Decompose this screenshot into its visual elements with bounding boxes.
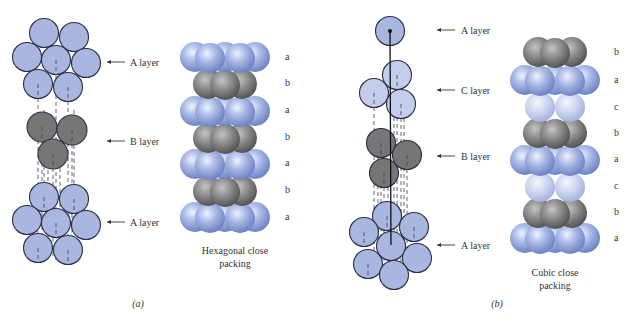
atom-a-layer — [30, 19, 59, 48]
caption-line: Cubic close — [532, 267, 579, 278]
stack-layer-label: a — [614, 232, 619, 243]
sphere-b — [210, 124, 240, 154]
arrow-left-icon — [437, 28, 441, 32]
atom-a-layer — [13, 206, 42, 235]
arrow-left-icon — [107, 220, 111, 224]
stack-layer-label: c — [614, 101, 619, 112]
panel-a-hexagonal: A layerB layerA layerabababaHexagonal cl… — [13, 19, 291, 311]
cubic-stack — [510, 37, 600, 254]
sphere-b — [540, 199, 570, 229]
layer-label: B layer — [130, 136, 160, 147]
sphere-b — [210, 177, 240, 207]
arrow-left-icon — [437, 88, 441, 92]
sphere-c — [525, 92, 555, 122]
stack-layer-label: a — [614, 74, 619, 85]
sphere-b — [540, 119, 570, 149]
atom-a-layer — [13, 43, 42, 72]
caption-line: packing — [539, 280, 571, 291]
sphere-a — [525, 146, 555, 176]
layer-label: A layer — [461, 240, 491, 251]
sphere-a — [555, 224, 585, 254]
atom-a-layer — [60, 23, 89, 52]
sphere-a — [525, 66, 555, 96]
stack-layer-label: b — [614, 206, 619, 217]
arrow-left-icon — [437, 154, 441, 158]
layer-label: A layer — [130, 57, 160, 68]
stack-layer-label: b — [285, 131, 290, 142]
sphere-b — [540, 38, 570, 68]
stack-layer-label: b — [614, 46, 619, 57]
panel-sublabel: (b) — [491, 298, 503, 310]
sphere-c — [555, 92, 585, 122]
stack-layer-label: a — [285, 104, 290, 115]
stack-layer-label: b — [285, 184, 290, 195]
atom-a-layer — [380, 261, 409, 290]
stack-layer-label: a — [285, 51, 290, 62]
sphere-a — [225, 203, 255, 233]
arrow-left-icon — [107, 139, 111, 143]
layer-label: A layer — [461, 25, 491, 36]
sphere-a — [525, 224, 555, 254]
stack-layer-label: c — [614, 180, 619, 191]
arrow-left-icon — [107, 60, 111, 64]
sphere-a — [195, 97, 225, 127]
stack-layer-label: b — [285, 77, 290, 88]
layer-label: C layer — [461, 85, 491, 96]
caption-line: Hexagonal close — [202, 245, 269, 256]
sphere-a — [555, 66, 585, 96]
close-packing-figure: A layerB layerA layerabababaHexagonal cl… — [0, 0, 632, 322]
panel-sublabel: (a) — [132, 298, 144, 310]
sphere-a — [225, 43, 255, 73]
sphere-a — [555, 146, 585, 176]
sphere-a — [195, 203, 225, 233]
axis-dot — [388, 29, 392, 33]
sphere-a — [195, 43, 225, 73]
stack-layer-label: a — [285, 211, 290, 222]
stack-layer-label: b — [614, 127, 619, 138]
layer-label: B layer — [461, 151, 491, 162]
sphere-c — [525, 172, 555, 202]
sphere-c — [555, 172, 585, 202]
atom-a-layer — [72, 211, 101, 240]
sphere-b — [210, 70, 240, 100]
atom-a-layer — [72, 49, 101, 78]
sphere-a — [225, 97, 255, 127]
stack-layer-label: a — [614, 153, 619, 164]
arrow-left-icon — [437, 243, 441, 247]
panel-b-cubic: A layerC layerB layerA layerbacbacbaCubi… — [350, 17, 620, 311]
sphere-a — [195, 150, 225, 180]
sphere-a — [225, 150, 255, 180]
layer-label: A layer — [130, 217, 160, 228]
caption-line: packing — [219, 258, 251, 269]
stack-layer-label: a — [285, 157, 290, 168]
hexagonal-stack — [180, 42, 270, 233]
